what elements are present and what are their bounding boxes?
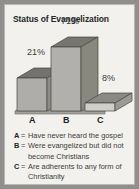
legend-description-b: Were evangelized but did not become Chri… [28,141,132,162]
category-label-c: C [97,115,104,125]
legend-item-a: A = Have never heard the gospel [14,131,132,141]
legend-description-a: Have never heard the gospel [28,131,132,141]
bar-value-label-b: 71% [61,16,79,26]
legend-separator-c: = [21,162,28,172]
bar-value-label-a: 21% [27,47,45,57]
legend-item-c: C = Are adherents to any form of Christi… [14,162,132,183]
chart-panel: Status of Evangelization [4,4,135,185]
bar-value-label-c: 8% [102,73,115,83]
legend-separator-a: = [21,131,28,141]
legend-key-c: C [14,162,21,172]
legend-item-b: B = Were evangelized but did not become … [14,141,132,162]
bar-chart-plot-area: 21% 71% 8% A B C [5,25,134,129]
legend-separator-b: = [21,141,28,151]
figure-container: Status of Evangelization [0,0,139,189]
legend-key-a: A [14,131,21,141]
legend-description-c: Are adherents to any form of Christianit… [28,162,132,183]
category-label-a: A [29,115,36,125]
legend-key-b: B [14,141,21,151]
category-label-b: B [63,115,70,125]
chart-legend: A = Have never heard the gospel B = Were… [14,131,132,182]
